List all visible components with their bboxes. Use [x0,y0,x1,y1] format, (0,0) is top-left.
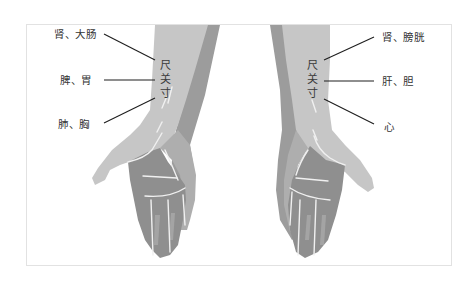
right-label-kidney-bladder: 肾、膀胱 [382,31,424,43]
left-label-lung-chest: 肺、胸 [58,118,90,130]
right-hand [270,25,374,258]
leader-line-right-cun [324,99,374,124]
left-position-cun: 寸 [159,87,171,101]
left-label-spleen-stomach: 脾、胃 [60,74,92,86]
right-label-liver-gallbladder: 肝、胆 [382,75,414,87]
leader-line-left-chi [104,34,155,60]
left-label-kidney-large-intestine: 肾、大肠 [54,28,96,40]
right-label-heart: 心 [384,121,395,133]
right-position-guan: 关 [306,73,318,87]
left-hand [92,25,220,258]
right-position-cun: 寸 [306,87,318,101]
left-position-guan: 关 [159,73,171,87]
pulse-diagram: 尺 关 寸 尺 关 寸 肾、大肠 脾、胃 肺、胸 肾、膀胱 肝、胆 心 [0,0,476,284]
right-position-chi: 尺 [306,59,318,73]
left-position-chi: 尺 [159,59,171,73]
leader-line-right-chi [324,37,374,60]
